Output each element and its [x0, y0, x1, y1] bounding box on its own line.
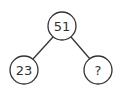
node-whole: 51	[48, 12, 76, 40]
connector-left	[33, 37, 53, 59]
node-part-right-label: ?	[95, 63, 102, 78]
connector-right	[71, 37, 90, 59]
number-bond-diagram: 51 23 ?	[0, 0, 119, 90]
node-part-right: ?	[84, 56, 112, 84]
node-part-left-label: 23	[16, 63, 33, 78]
node-whole-label: 51	[54, 19, 71, 34]
node-part-left: 23	[10, 56, 38, 84]
